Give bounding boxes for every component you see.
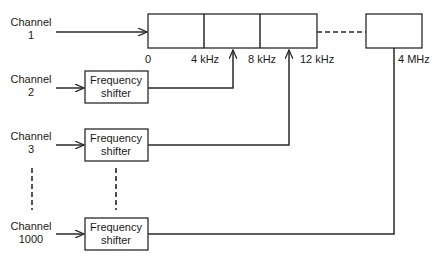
channel-1000-number: 1000 bbox=[19, 233, 43, 245]
channel-3-number: 3 bbox=[28, 143, 34, 155]
shifter-1000-line1: Frequency bbox=[90, 221, 142, 233]
shifter-3-line1: Frequency bbox=[90, 132, 142, 144]
band-label-4mhz: 4 MHz bbox=[398, 53, 430, 65]
channel-1000-label: Channel bbox=[11, 220, 52, 232]
fdm-diagram: 0 4 kHz 8 kHz 12 kHz 4 MHz Channel 1 Cha… bbox=[0, 0, 438, 262]
band-box-4mhz bbox=[366, 14, 422, 48]
channel-3-label: Channel bbox=[11, 130, 52, 142]
shifter-1000-output-path bbox=[148, 48, 394, 234]
shifter-2-line2: shifter bbox=[101, 87, 131, 99]
frequency-band-bar bbox=[148, 14, 422, 48]
band-label-8khz: 8 kHz bbox=[248, 53, 276, 65]
shifter-2-line1: Frequency bbox=[90, 74, 142, 86]
band-label-4khz: 4 kHz bbox=[191, 53, 219, 65]
channel-2-number: 2 bbox=[28, 86, 34, 98]
band-box bbox=[148, 14, 317, 48]
shifter-3-line2: shifter bbox=[101, 145, 131, 157]
band-label-0: 0 bbox=[145, 53, 151, 65]
shifter-1000-line2: shifter bbox=[101, 234, 131, 246]
channel-1-label: Channel bbox=[11, 16, 52, 28]
band-label-12khz: 12 kHz bbox=[300, 53, 334, 65]
channel-2-label: Channel bbox=[11, 73, 52, 85]
channel-1-number: 1 bbox=[28, 29, 34, 41]
